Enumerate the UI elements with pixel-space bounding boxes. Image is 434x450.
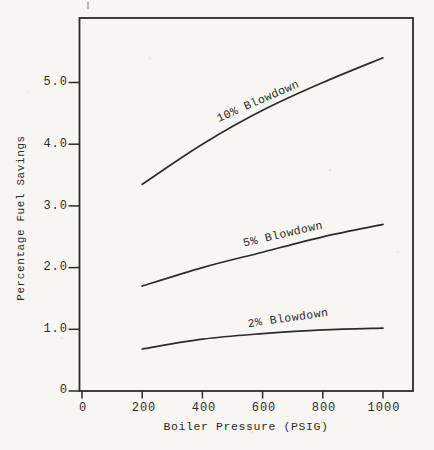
x-tick-label: 200 <box>132 402 157 415</box>
y-tick-label: 4.0 <box>32 138 68 151</box>
x-axis-title: Boiler Pressure (PSIG) <box>163 420 328 433</box>
x-tick-label: 0 <box>79 402 87 415</box>
y-tick-label: 0 <box>32 384 68 397</box>
y-axis-title: Percentage Fuel Savings <box>15 135 27 301</box>
y-tick-label: 3.0 <box>32 200 68 213</box>
x-tick-label: 1000 <box>368 402 401 415</box>
y-tick-label: 1.0 <box>32 323 68 336</box>
series-line-2-blowdown <box>142 328 383 349</box>
x-tick-label: 800 <box>312 402 337 415</box>
x-tick-label: 400 <box>192 402 217 415</box>
x-tick-label: 600 <box>252 402 277 415</box>
series-line-10-blowdown <box>142 58 383 185</box>
y-tick-label: 5.0 <box>32 76 68 89</box>
fuel-savings-vs-boiler-pressure-chart: 5.0 4.0 3.0 2.0 1.0 0 0 200 400 600 800 … <box>0 0 434 450</box>
y-tick-label: 2.0 <box>32 261 68 274</box>
